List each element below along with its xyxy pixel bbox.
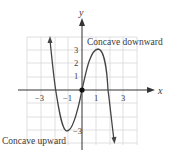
y-tick-label: 2 xyxy=(74,58,78,68)
y-axis-arrow-icon xyxy=(79,18,85,26)
concave-upward-label: Concave upward xyxy=(2,136,66,146)
inflection-point xyxy=(79,87,84,92)
x-tick-label: −3 xyxy=(35,93,44,103)
concave-downward-label: Concave downward xyxy=(87,37,163,47)
x-tick-label: −1 xyxy=(63,93,72,103)
x-axis-label: x xyxy=(157,85,163,96)
y-tick-label: 3 xyxy=(74,45,78,55)
x-axis-arrow-icon xyxy=(147,87,155,93)
y-tick-label: −3 xyxy=(73,126,82,136)
y-tick-label: 1 xyxy=(74,71,78,81)
x-tick-label: 3 xyxy=(121,93,125,103)
y-axis-label: y xyxy=(78,7,84,18)
concavity-chart: x y −3 −1 1 3 3 2 1 −3 Concave downward … xyxy=(0,0,185,156)
x-tick-label: 1 xyxy=(94,93,98,103)
